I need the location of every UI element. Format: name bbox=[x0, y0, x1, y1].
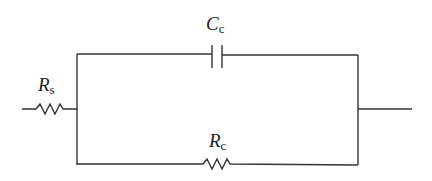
label-cc-subscript: c bbox=[219, 21, 225, 36]
resistor-rc-symbol bbox=[77, 159, 358, 169]
label-rc-subscript: c bbox=[221, 138, 227, 153]
label-rs-symbol: R bbox=[38, 74, 50, 95]
label-cc: Cc bbox=[206, 13, 224, 37]
label-rs: Rs bbox=[38, 74, 55, 98]
label-rc: Rc bbox=[209, 130, 226, 154]
label-rs-subscript: s bbox=[50, 82, 55, 97]
label-cc-symbol: C bbox=[206, 13, 219, 34]
circuit-diagram: Rs Cc Rc bbox=[0, 0, 432, 181]
resistor-rs-symbol bbox=[22, 104, 77, 114]
label-rc-symbol: R bbox=[209, 130, 221, 151]
